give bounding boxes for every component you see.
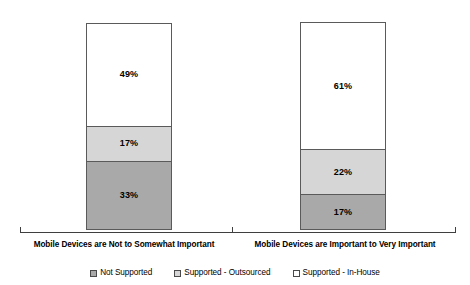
bar-column-2[interactable]: 61% 22% 17%: [300, 22, 386, 232]
legend-item-in-house[interactable]: Supported - In-House: [293, 268, 380, 278]
legend-label: Not Supported: [100, 268, 152, 278]
category-axis-line: [20, 232, 455, 233]
bar-column-1[interactable]: 49% 17% 33%: [86, 23, 172, 232]
axis-tick-middle: [232, 227, 233, 233]
bar-segment-label: 17%: [120, 139, 139, 148]
legend-swatch-icon: [293, 270, 300, 277]
legend-label: Supported - In-House: [303, 268, 380, 278]
category-labels: Mobile Devices are Not to Somewhat Impor…: [0, 238, 470, 254]
legend-label: Supported - Outsourced: [184, 268, 270, 278]
bar-segment-in-house[interactable]: 61%: [300, 22, 386, 150]
bar-segment-not-supported[interactable]: 17%: [300, 194, 386, 230]
category-label-2: Mobile Devices are Important to Very Imp…: [234, 238, 456, 252]
chart-legend: Not Supported Supported - Outsourced Sup…: [0, 266, 470, 280]
legend-swatch-icon: [90, 270, 97, 277]
legend-swatch-icon: [174, 270, 181, 277]
bar-segment-outsourced[interactable]: 17%: [86, 126, 172, 162]
plot-area: 49% 17% 33% 61% 22% 17%: [0, 0, 470, 233]
bar-segment-not-supported[interactable]: 33%: [86, 161, 172, 231]
bar-segment-outsourced[interactable]: 22%: [300, 149, 386, 195]
category-label-1: Mobile Devices are Not to Somewhat Impor…: [14, 238, 234, 252]
stacked-bar-chart: 49% 17% 33% 61% 22% 17% Mobile: [0, 0, 470, 285]
bar-segment-label: 61%: [334, 82, 353, 91]
bar-segment-label: 49%: [120, 70, 139, 79]
bar-segment-label: 33%: [120, 191, 139, 200]
axis-tick-left: [20, 227, 21, 233]
bar-segment-label: 22%: [334, 168, 353, 177]
legend-item-outsourced[interactable]: Supported - Outsourced: [174, 268, 270, 278]
axis-tick-right: [455, 227, 456, 233]
bar-segment-label: 17%: [334, 208, 353, 217]
legend-item-not-supported[interactable]: Not Supported: [90, 268, 152, 278]
bar-segment-in-house[interactable]: 49%: [86, 23, 172, 127]
